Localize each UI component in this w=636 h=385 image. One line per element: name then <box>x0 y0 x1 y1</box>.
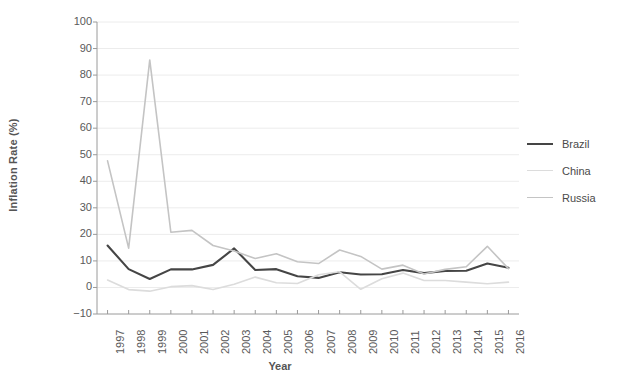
x-tick-label: 2004 <box>261 314 274 354</box>
x-tick-label: 2008 <box>346 314 359 354</box>
x-tick-label: 2007 <box>325 314 338 354</box>
y-tick-label: 90 <box>58 43 92 54</box>
x-tick-label: 2002 <box>219 314 232 354</box>
y-tick-label: 10 <box>58 255 92 266</box>
gridlines <box>97 22 519 287</box>
x-tick-label: 1999 <box>156 314 169 354</box>
x-tick-label: 2003 <box>240 314 253 354</box>
x-tick-label: 2001 <box>198 314 211 354</box>
y-tick-label: −10 <box>58 308 92 319</box>
y-tick-label: 70 <box>58 96 92 107</box>
legend-label: Russia <box>562 192 596 204</box>
y-axis-tick-marks <box>93 22 97 314</box>
x-tick-label: 2000 <box>177 314 190 354</box>
x-tick-label: 2011 <box>409 314 422 354</box>
data-series-lines <box>108 60 509 291</box>
legend-swatch-russia <box>527 197 553 198</box>
plot-area <box>97 22 519 314</box>
y-axis-label: Inflation Rate (%) <box>2 0 24 330</box>
legend-swatch-brazil <box>527 143 553 145</box>
plot-svg <box>97 22 519 314</box>
x-tick-label: 1997 <box>114 314 127 354</box>
x-tick-label: 2015 <box>493 314 506 354</box>
y-tick-label: 80 <box>58 69 92 80</box>
x-axis-label: Year <box>0 360 560 372</box>
y-axis-label-text: Inflation Rate (%) <box>7 118 19 211</box>
series-line-china <box>108 272 509 291</box>
y-tick-label: 100 <box>58 16 92 27</box>
x-tick-label: 2005 <box>282 314 295 354</box>
x-axis-tick-marks <box>108 310 509 314</box>
y-tick-label: 50 <box>58 149 92 160</box>
y-tick-label: 20 <box>58 228 92 239</box>
legend-item-china[interactable]: China <box>527 157 632 184</box>
chart-legend: BrazilChinaRussia <box>527 130 632 211</box>
legend-label: Brazil <box>562 138 590 150</box>
x-tick-label: 2012 <box>430 314 443 354</box>
x-tick-label: 2013 <box>451 314 464 354</box>
y-tick-label: 40 <box>58 175 92 186</box>
y-tick-label: 30 <box>58 202 92 213</box>
series-line-russia <box>108 60 509 274</box>
y-tick-label: 60 <box>58 122 92 133</box>
x-tick-label: 2016 <box>514 314 527 354</box>
x-tick-label: 2009 <box>367 314 380 354</box>
legend-item-russia[interactable]: Russia <box>527 184 632 211</box>
y-tick-label: 0 <box>58 281 92 292</box>
legend-item-brazil[interactable]: Brazil <box>527 130 632 157</box>
x-tick-label: 1998 <box>135 314 148 354</box>
legend-swatch-china <box>527 170 553 171</box>
x-tick-label: 2010 <box>388 314 401 354</box>
y-axis-tick-labels: −100102030405060708090100 <box>52 0 92 385</box>
x-tick-label: 2006 <box>303 314 316 354</box>
legend-label: China <box>562 165 591 177</box>
inflation-rate-line-chart: Inflation Rate (%) −10010203040506070809… <box>0 0 636 385</box>
x-tick-label: 2014 <box>472 314 485 354</box>
